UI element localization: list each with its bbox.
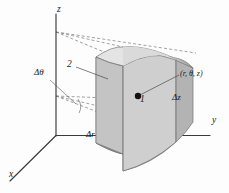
point-coordinates-label: (r, θ, z)	[180, 70, 203, 78]
delta-r-label: Δr	[86, 130, 95, 139]
cylindrical-coordinates-figure: z y x Δθ Δr Δz 2 1 (r, θ, z)	[0, 0, 229, 193]
volume-element-solid	[96, 47, 193, 171]
x-axis-label: x	[9, 170, 13, 180]
face-1-label: 1	[140, 95, 145, 105]
face-1-outer-radius	[123, 55, 176, 171]
dashed-top-inner	[56, 32, 123, 47]
figure-canvas	[0, 0, 229, 193]
delta-theta-leader-line	[50, 80, 76, 104]
face-2-theta	[96, 57, 123, 154]
x-axis	[10, 136, 56, 182]
delta-theta-label: Δθ	[34, 68, 44, 77]
face-2-label: 2	[67, 60, 72, 70]
delta-z-label: Δz	[172, 93, 181, 102]
y-axis-label: y	[212, 116, 216, 126]
z-axis-label: z	[57, 5, 61, 15]
